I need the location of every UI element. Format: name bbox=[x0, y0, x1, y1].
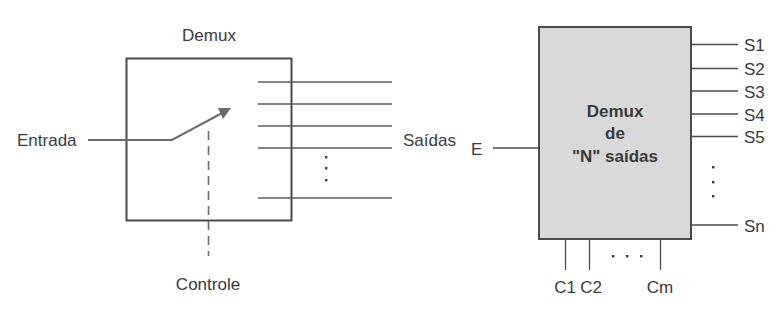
block-text-line-3: "N" saídas bbox=[572, 147, 658, 166]
block-text-line-1: Demux bbox=[587, 102, 644, 121]
control-cm: Cm bbox=[647, 278, 673, 297]
input-e-label: E bbox=[471, 140, 482, 159]
outputs-label: Saídas bbox=[403, 131, 456, 150]
block-text-line-2: de bbox=[605, 124, 625, 143]
control-label: Controle bbox=[176, 275, 240, 294]
output-s1: S1 bbox=[744, 36, 765, 55]
control-ellipsis-dots bbox=[612, 255, 642, 257]
demux-diagram: Demux Entrada Saídas Controle Demux de "… bbox=[0, 0, 782, 314]
output-sn: Sn bbox=[744, 217, 765, 236]
control-lines bbox=[566, 239, 661, 270]
output-s2: S2 bbox=[744, 60, 765, 79]
right-output-ellipsis-dots bbox=[712, 166, 714, 197]
right-output-lines bbox=[691, 45, 738, 226]
right-demux-diagram: Demux de "N" saídas E S1 S2 S3 S4 S5 Sn bbox=[471, 27, 765, 297]
input-switch-line bbox=[88, 112, 224, 140]
output-s5: S5 bbox=[744, 128, 765, 147]
input-label: Entrada bbox=[17, 131, 77, 150]
left-demux-diagram: Demux Entrada Saídas Controle bbox=[17, 26, 456, 294]
left-title: Demux bbox=[182, 26, 236, 45]
output-s3: S3 bbox=[744, 83, 765, 102]
output-s4: S4 bbox=[744, 106, 765, 125]
control-c2: C2 bbox=[580, 278, 602, 297]
control-c1: C1 bbox=[554, 278, 576, 297]
output-ellipsis-dots bbox=[325, 156, 327, 181]
